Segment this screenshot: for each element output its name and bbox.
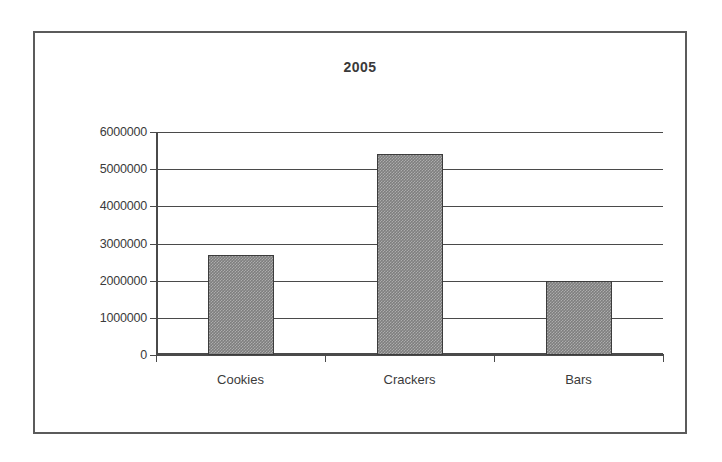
- gridline: [156, 355, 663, 356]
- y-tick-mark: [150, 244, 157, 245]
- x-category-label-bars: Bars: [565, 372, 592, 387]
- chart-title: 2005: [35, 59, 685, 75]
- gridline: [156, 132, 663, 133]
- bar-crackers: [377, 154, 443, 355]
- y-tick-label: 1000000: [100, 311, 147, 325]
- x-category-label-cookies: Cookies: [217, 372, 264, 387]
- x-tick-mark: [156, 354, 157, 362]
- bar-bars: [546, 281, 612, 355]
- y-tick-label: 5000000: [100, 162, 147, 176]
- x-tick-mark: [663, 354, 664, 362]
- y-tick-label: 4000000: [100, 199, 147, 213]
- plot-area: 6000000500000040000003000000200000010000…: [156, 132, 663, 355]
- y-tick-mark: [150, 169, 157, 170]
- y-tick-mark: [150, 281, 157, 282]
- y-tick-label: 2000000: [100, 274, 147, 288]
- y-tick-label: 0: [140, 348, 147, 362]
- y-tick-mark: [150, 132, 157, 133]
- y-tick-label: 6000000: [100, 125, 147, 139]
- x-tick-mark: [494, 354, 495, 362]
- bar-cookies: [208, 255, 274, 355]
- x-category-label-crackers: Crackers: [383, 372, 435, 387]
- y-tick-label: 3000000: [100, 237, 147, 251]
- x-tick-mark: [325, 354, 326, 362]
- y-tick-mark: [150, 318, 157, 319]
- y-tick-mark: [150, 206, 157, 207]
- chart-frame: 2005 60000005000000400000030000002000000…: [33, 31, 687, 434]
